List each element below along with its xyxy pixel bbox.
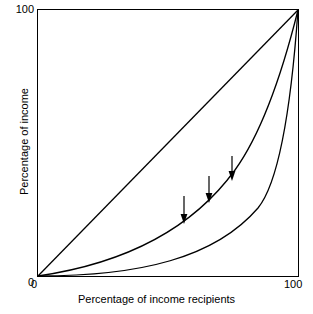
- lorenz-curve-chart: 100 0 0 100 Percentage of income recipie…: [0, 0, 313, 314]
- y-axis-title: Percentage of income: [18, 42, 31, 242]
- chart-canvas: [0, 0, 313, 314]
- shift-arrow-2: [206, 176, 213, 203]
- x-axis-title: Percentage of income recipients: [0, 293, 313, 306]
- x-axis-tick-100: 100: [284, 278, 302, 290]
- y-axis-tick-100: 100: [10, 3, 34, 15]
- series-line-of-equality: [38, 10, 298, 276]
- x-axis-tick-0: 0: [31, 278, 37, 290]
